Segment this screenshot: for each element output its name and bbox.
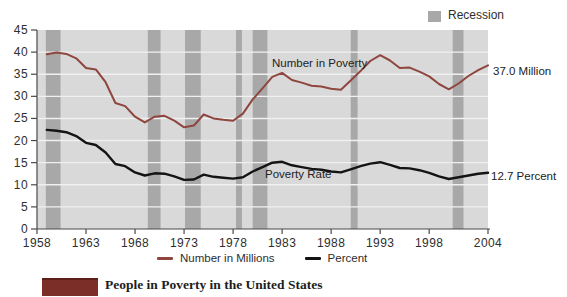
rate-end-value-label: 12.7 Percent <box>491 170 556 182</box>
x-tick-label: 1968 <box>121 236 149 250</box>
x-tick-label: 2004 <box>474 236 502 250</box>
legend-item-number-label: Number in Millions <box>180 252 275 264</box>
legend-item-number: Number in Millions <box>157 252 275 264</box>
number-in-poverty-label: Number in Poverty <box>272 57 367 69</box>
figure-number-badge <box>42 278 98 296</box>
y-tick-label: 30 <box>14 89 28 103</box>
y-tick-label: 25 <box>14 111 28 125</box>
number-line-swatch-icon <box>157 257 173 260</box>
y-tick-labels: 051015202530354045 <box>14 23 28 236</box>
poverty-line-chart: 051015202530354045 195819631968197319781… <box>0 0 567 250</box>
y-tick-label: 0 <box>21 222 28 236</box>
x-tick-label: 1993 <box>366 236 394 250</box>
recession-band <box>236 30 242 229</box>
x-tick-label: 1973 <box>170 236 198 250</box>
y-tick-label: 10 <box>14 178 28 192</box>
y-tick-label: 20 <box>14 134 28 148</box>
legend-item-percent-label: Percent <box>328 252 368 264</box>
figure-caption-row: People in Poverty in the United States <box>0 277 567 297</box>
y-tick-label: 45 <box>14 23 28 37</box>
recession-band <box>148 30 161 229</box>
y-tick-label: 35 <box>14 67 28 81</box>
poverty-rate-label: Poverty Rate <box>265 168 331 180</box>
y-tick-label: 5 <box>21 200 28 214</box>
figure-caption-text: People in Poverty in the United States <box>105 277 322 293</box>
y-tick-label: 15 <box>14 156 28 170</box>
x-tick-label: 1963 <box>72 236 100 250</box>
x-tick-label: 1983 <box>268 236 296 250</box>
x-tick-label: 1988 <box>317 236 345 250</box>
percent-line-swatch-icon <box>305 257 321 260</box>
number-end-value-label: 37.0 Million <box>493 65 551 77</box>
recession-band <box>185 30 201 229</box>
legend-item-percent: Percent <box>305 252 368 264</box>
recession-band <box>453 30 464 229</box>
x-tick-labels: 1958196319681973197819831988199319982004 <box>23 236 502 250</box>
recession-band <box>253 30 268 229</box>
y-tick-label: 40 <box>14 45 28 59</box>
x-tick-label: 1978 <box>219 236 247 250</box>
x-tick-label: 1958 <box>23 236 51 250</box>
bottom-legend: Number in Millions Percent <box>157 252 367 264</box>
x-tick-label: 1998 <box>415 236 443 250</box>
